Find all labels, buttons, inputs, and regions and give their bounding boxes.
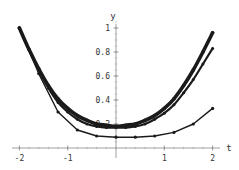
data-point-marker [18,26,21,29]
data-point-marker [86,123,89,126]
y-tick-label: 0.8 [96,48,111,57]
data-point-marker [56,110,59,113]
data-point-marker [191,68,195,72]
data-point-marker [192,78,195,81]
y-tick-label: 0.4 [96,96,111,105]
data-point-marker [47,87,50,90]
data-point-marker [143,123,146,126]
data-point-marker [85,119,89,123]
data-point-marker [76,114,80,118]
data-point-marker [95,134,98,137]
data-point-marker [172,131,175,134]
data-point-marker [172,97,176,101]
y-tick-label: 1 [105,24,110,33]
data-point-marker [153,114,157,118]
x-tick-label: -1 [63,154,73,163]
data-point-marker [153,134,156,137]
chart: -2-1120.20.40.60.81 y t [0,0,239,170]
data-point-marker [201,50,205,54]
data-point-marker [163,112,166,115]
data-point-marker [172,103,175,106]
data-point-marker [66,111,69,114]
x-axis-label: t [226,143,231,153]
x-tick-label: -2 [15,154,25,163]
data-point-marker [115,126,118,129]
data-point-marker [163,107,167,111]
y-axis-label: y [110,11,116,21]
data-point-marker [134,125,137,128]
data-point-marker [76,128,79,131]
x-tick-label: 1 [162,154,167,163]
x-tick-label: 2 [210,154,215,163]
data-point-marker [182,84,186,88]
data-point-marker [182,91,185,94]
data-point-marker [192,122,195,125]
data-point-marker [134,136,137,139]
data-point-marker [201,63,204,66]
data-point-marker [105,126,108,129]
axes: -2-1120.20.40.60.81 [12,22,220,163]
data-point-marker [76,118,79,121]
data-point-marker [95,125,98,128]
data-point-marker [153,118,156,121]
data-point-marker [37,72,40,75]
y-tick-label: 0.6 [96,72,111,81]
data-point-marker [124,126,127,129]
data-point-marker [211,107,214,110]
data-point-marker [211,31,215,35]
data-point-marker [57,101,60,104]
data-point-marker [114,136,117,139]
data-point-marker [211,47,214,50]
data-point-marker [143,119,147,123]
